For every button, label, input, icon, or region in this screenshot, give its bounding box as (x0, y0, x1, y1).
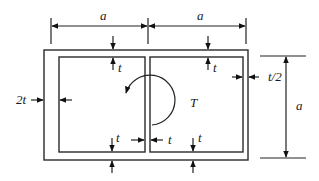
label-right-t-half: t/2 (268, 69, 282, 84)
label-torque: T (190, 95, 198, 110)
label-left-2t: 2t (16, 92, 27, 107)
label-width-right: a (197, 8, 204, 23)
label-top-left-t: t (118, 60, 122, 75)
outer-wall (44, 50, 248, 160)
section-outline (44, 50, 248, 160)
torque-indicator: T (126, 75, 198, 125)
label-bottom-left-t: t (116, 130, 120, 145)
top-left-thickness: t (113, 36, 122, 75)
label-height: a (296, 98, 303, 113)
top-width-dimension: a a (51, 8, 246, 44)
label-web-t: t (168, 132, 172, 147)
height-dimension: a (260, 56, 306, 158)
label-top-right-t: t (213, 60, 217, 75)
label-bottom-right-t: t (198, 130, 202, 145)
right-wall-thickness: t/2 (232, 69, 282, 84)
top-right-thickness: t (208, 36, 217, 75)
web-thickness: t (131, 132, 172, 147)
label-width-left: a (100, 8, 107, 23)
box-section-diagram: a a a t t t t t 2t (0, 0, 319, 181)
left-cell-inner (59, 57, 145, 152)
